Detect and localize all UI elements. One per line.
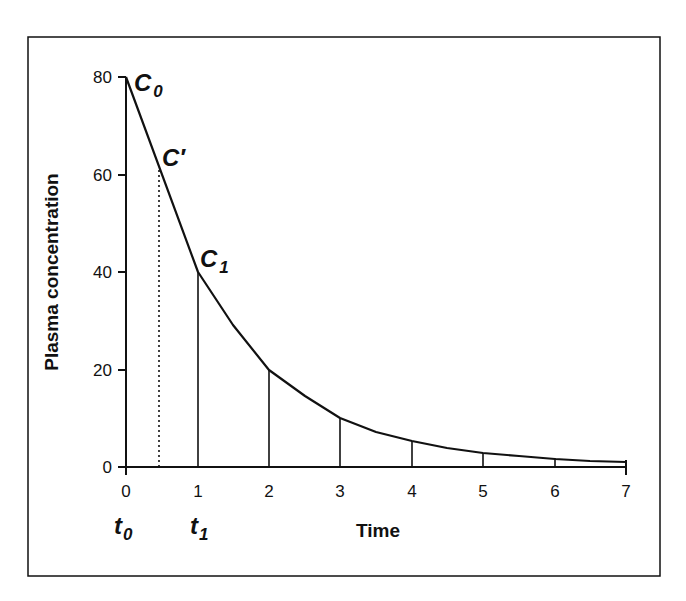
x-tick-6: 6 (550, 482, 559, 501)
x-tick-5: 5 (478, 482, 487, 501)
y-axis-title: Plasma concentration (41, 173, 62, 370)
y-tick-60: 60 (93, 166, 112, 185)
ordinate-lines (159, 170, 555, 467)
x-tick-7: 7 (621, 482, 630, 501)
y-tick-0: 0 (103, 458, 112, 477)
label-cprime: C′ (162, 144, 186, 171)
label-t0: t0 (114, 512, 133, 544)
label-c0: C0 (134, 69, 163, 101)
x-tick-labels: 0 1 2 3 4 5 6 7 (121, 482, 630, 501)
y-tick-20: 20 (93, 361, 112, 380)
x-tick-3: 3 (335, 482, 344, 501)
y-tick-labels: 80 60 40 20 0 (93, 68, 112, 477)
x-axis-title: Time (356, 520, 400, 541)
label-t1: t1 (190, 512, 208, 544)
x-tick-4: 4 (407, 482, 416, 501)
x-tick-0: 0 (121, 482, 130, 501)
chart-figure: 80 60 40 20 0 0 1 2 3 4 5 6 7 C0 C′ C1 t… (0, 0, 686, 601)
y-tick-40: 40 (93, 263, 112, 282)
y-tick-80: 80 (93, 68, 112, 87)
y-ticks (118, 77, 126, 467)
axes (120, 77, 626, 471)
label-c1: C1 (200, 245, 229, 277)
x-tick-2: 2 (264, 482, 273, 501)
x-tick-1: 1 (193, 482, 202, 501)
